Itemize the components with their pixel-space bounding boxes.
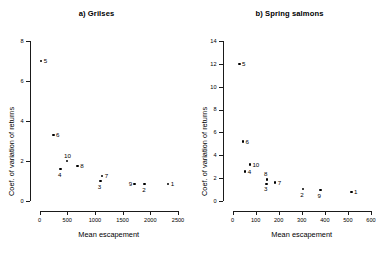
x-tick-label: 2000 — [138, 217, 162, 223]
data-point-label: 1 — [354, 188, 357, 195]
y-tick-label: 10 — [203, 84, 217, 90]
y-tick — [219, 132, 223, 133]
y-tick — [26, 161, 30, 162]
y-tick-label: 0 — [203, 198, 217, 204]
y-tick — [219, 110, 223, 111]
y-axis-title: Coef. of variation of returns — [7, 107, 16, 196]
data-point-label: 2 — [142, 186, 145, 193]
data-point — [266, 178, 269, 181]
y-tick — [26, 121, 30, 122]
x-tick-label: 0 — [28, 217, 52, 223]
plot-area: 024681012140100200300400500600Mean escap… — [193, 0, 386, 257]
x-tick-label: 1000 — [83, 217, 107, 223]
data-point-label: 2 — [300, 191, 303, 198]
y-tick — [219, 87, 223, 88]
data-point — [238, 63, 241, 66]
x-tick — [371, 211, 372, 215]
y-tick-label: 8 — [10, 38, 24, 44]
x-tick — [40, 211, 41, 215]
x-tick — [279, 211, 280, 215]
x-tick-label: 500 — [336, 217, 360, 223]
data-point-label: 7 — [105, 172, 108, 179]
x-axis-title: Mean escapement — [198, 230, 386, 239]
y-tick-label: 12 — [203, 61, 217, 67]
x-tick-label: 400 — [313, 217, 337, 223]
y-axis-line — [223, 41, 224, 201]
data-point — [101, 175, 104, 178]
x-tick-label: 300 — [290, 217, 314, 223]
data-point — [274, 181, 277, 184]
x-tick — [178, 211, 179, 215]
x-tick-label: 500 — [55, 217, 79, 223]
data-point — [244, 170, 247, 173]
y-tick — [219, 178, 223, 179]
data-point-label: 10 — [64, 152, 71, 159]
y-tick-label: 0 — [10, 198, 24, 204]
y-tick — [26, 41, 30, 42]
y-tick — [219, 41, 223, 42]
data-point-label: 9 — [129, 180, 132, 187]
x-tick — [233, 211, 234, 215]
y-tick — [219, 155, 223, 156]
x-tick-label: 2500 — [166, 217, 190, 223]
x-tick-label: 100 — [244, 217, 268, 223]
x-tick — [150, 211, 151, 215]
data-point-label: 10 — [252, 161, 259, 168]
plot-area: 0246805001000150020002500Mean escapement… — [0, 0, 193, 257]
data-point — [249, 163, 252, 166]
y-tick-label: 14 — [203, 38, 217, 44]
x-tick-label: 200 — [267, 217, 291, 223]
data-point — [52, 134, 55, 137]
y-tick — [219, 64, 223, 65]
x-tick-label: 600 — [359, 217, 383, 223]
x-tick — [256, 211, 257, 215]
figure-container: a) Grilses 0246805001000150020002500Mean… — [0, 0, 386, 257]
y-tick-label: 6 — [10, 78, 24, 84]
x-tick-label: 0 — [221, 217, 245, 223]
data-point-label: 3 — [98, 183, 101, 190]
data-point-label: 8 — [264, 170, 267, 177]
x-axis-line — [40, 211, 179, 212]
data-point — [66, 160, 69, 163]
y-tick — [26, 201, 30, 202]
panel-grilses: a) Grilses 0246805001000150020002500Mean… — [0, 0, 193, 257]
data-point-label: 9 — [318, 192, 321, 199]
data-point — [350, 191, 353, 194]
y-tick — [26, 81, 30, 82]
y-axis-title: Coef. of variation of returns — [200, 107, 209, 196]
data-point-label: 5 — [242, 60, 245, 67]
y-axis-line — [30, 41, 31, 201]
data-point-label: 3 — [264, 185, 267, 192]
x-tick-label: 1500 — [111, 217, 135, 223]
x-tick — [348, 211, 349, 215]
x-tick — [123, 211, 124, 215]
data-point — [76, 165, 79, 168]
data-point-label: 1 — [171, 180, 174, 187]
x-tick — [302, 211, 303, 215]
data-point-label: 6 — [56, 131, 59, 138]
data-point — [40, 60, 43, 63]
x-tick — [67, 211, 68, 215]
panel-spring-salmons: b) Spring salmons 0246810121401002003004… — [193, 0, 386, 257]
x-axis-title: Mean escapement — [5, 230, 214, 239]
y-tick — [219, 201, 223, 202]
data-point-label: 5 — [44, 57, 47, 64]
data-point-label: 4 — [58, 171, 61, 178]
data-point — [133, 183, 136, 186]
data-point-label: 6 — [245, 138, 248, 145]
data-point-label: 4 — [248, 168, 251, 175]
x-tick — [95, 211, 96, 215]
data-point-label: 8 — [80, 162, 83, 169]
data-point-label: 7 — [278, 179, 281, 186]
data-point — [167, 183, 170, 186]
data-point — [242, 140, 245, 143]
x-tick — [325, 211, 326, 215]
